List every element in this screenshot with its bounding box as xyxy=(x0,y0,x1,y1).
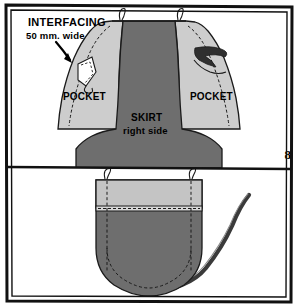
illustration-page: INTERFACING 50 mm. wide POCKET POCKET SK… xyxy=(0,0,298,308)
illustration-frame xyxy=(0,0,298,308)
frame-inner-border xyxy=(11,10,287,297)
frame-outer-border xyxy=(6,5,292,302)
frame-panel-divider xyxy=(7,167,291,169)
